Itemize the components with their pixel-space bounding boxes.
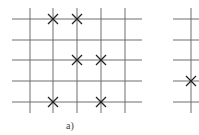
panel-a-caption: a) — [66, 120, 74, 131]
grid-diagram — [0, 0, 199, 135]
